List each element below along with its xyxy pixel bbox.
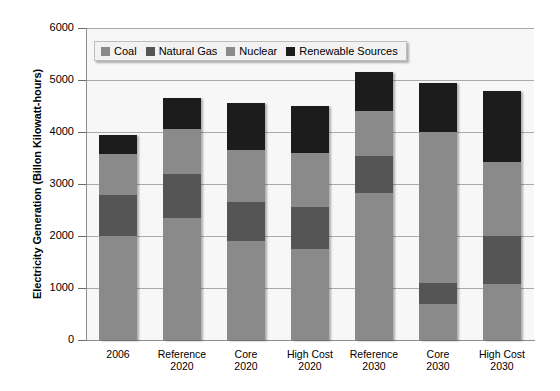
bar-stack[interactable] — [419, 83, 457, 340]
bar-stack[interactable] — [355, 72, 393, 340]
y-tick-label-2000: 2000 — [0, 229, 86, 241]
bar-segment-coal[interactable] — [483, 284, 521, 340]
bar-segment-coal[interactable] — [227, 241, 265, 340]
x-axis-label-line1: Reference — [350, 348, 398, 360]
y-tick-label-1000: 1000 — [0, 281, 86, 293]
bar-segment-nuclear[interactable] — [99, 154, 137, 195]
x-axis-label-line1: Core — [235, 348, 258, 360]
bar-segment-coal[interactable] — [163, 218, 201, 340]
bar-segment-nuclear[interactable] — [483, 162, 521, 236]
y-axis-line — [86, 28, 87, 341]
bar-segment-renewable-sources[interactable] — [163, 98, 201, 129]
bar-segment-coal[interactable] — [355, 193, 393, 340]
bar-group[interactable] — [227, 0, 265, 340]
bar-segment-natural-gas[interactable] — [99, 195, 137, 236]
bar-segment-nuclear[interactable] — [419, 132, 457, 283]
bar-segment-nuclear[interactable] — [163, 129, 201, 173]
y-tick-label-5000: 5000 — [0, 73, 86, 85]
stacked-bar-chart: Electricity Generation (Billon Kilowatt-… — [0, 0, 560, 391]
bar-stack[interactable] — [163, 98, 201, 340]
bar-segment-natural-gas[interactable] — [291, 207, 329, 249]
bar-group[interactable] — [99, 0, 137, 340]
x-axis-line — [86, 340, 535, 341]
bar-segment-nuclear[interactable] — [355, 111, 393, 156]
x-axis-label-line1: High Cost — [287, 348, 333, 360]
bar-segment-renewable-sources[interactable] — [227, 103, 265, 150]
bar-segment-natural-gas[interactable] — [163, 174, 201, 218]
bar-stack[interactable] — [99, 135, 137, 340]
y-tick-label-6000: 6000 — [0, 21, 86, 33]
y-tick-label-0: 0 — [0, 333, 86, 345]
x-axis-label-line1: 2006 — [106, 348, 129, 360]
bar-group[interactable] — [163, 0, 201, 340]
bar-segment-natural-gas[interactable] — [483, 236, 521, 284]
x-axis-label-line1: Core — [427, 348, 450, 360]
bar-segment-natural-gas[interactable] — [227, 202, 265, 241]
bar-segment-renewable-sources[interactable] — [99, 135, 137, 155]
bar-group[interactable] — [291, 0, 329, 340]
bar-group[interactable] — [483, 0, 521, 340]
legend-swatch-natural-gas — [146, 47, 155, 56]
bar-segment-renewable-sources[interactable] — [355, 72, 393, 111]
x-axis-label-line2: 2030 — [459, 360, 545, 372]
bar-group[interactable] — [355, 0, 393, 340]
bar-stack[interactable] — [291, 106, 329, 340]
x-axis-label: High Cost2030 — [459, 348, 545, 372]
bar-segment-coal[interactable] — [99, 236, 137, 340]
bar-segment-natural-gas[interactable] — [419, 283, 457, 304]
bar-segment-renewable-sources[interactable] — [291, 106, 329, 153]
bar-segment-coal[interactable] — [419, 304, 457, 340]
bar-segment-renewable-sources[interactable] — [483, 91, 521, 161]
bar-segment-nuclear[interactable] — [227, 150, 265, 202]
bar-stack[interactable] — [483, 91, 521, 340]
bar-stack[interactable] — [227, 103, 265, 340]
bar-segment-coal[interactable] — [291, 249, 329, 340]
bar-segment-renewable-sources[interactable] — [419, 83, 457, 132]
bar-group[interactable] — [419, 0, 457, 340]
x-axis-label-line1: Reference — [158, 348, 206, 360]
y-tick-label-3000: 3000 — [0, 177, 86, 189]
x-axis-label-line1: High Cost — [479, 348, 525, 360]
bar-segment-nuclear[interactable] — [291, 153, 329, 208]
y-tick-label-4000: 4000 — [0, 125, 86, 137]
bar-segment-natural-gas[interactable] — [355, 156, 393, 192]
